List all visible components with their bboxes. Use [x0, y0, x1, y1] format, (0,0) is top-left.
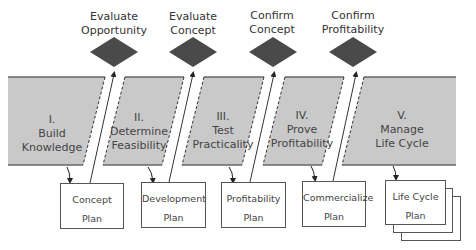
gate-diamond-3	[249, 37, 297, 67]
arrow-phase1-to-plan1	[67, 167, 70, 181]
arrow-phase2-to-plan2	[148, 167, 153, 181]
arrow-phase3-to-plan3	[229, 167, 233, 181]
arrow-phase4-to-plan4	[311, 166, 315, 179]
plan-box-life-cycle: Life Cycle Plan	[385, 180, 446, 225]
phase-label-4: IV. Prove Profitability	[257, 109, 347, 151]
gate-label-4: Confirm Profitability	[308, 9, 398, 37]
gate-label-1: Evaluate Opportunity	[69, 10, 159, 38]
phase-label-2: II. Determine Feasibility	[94, 111, 184, 153]
gate-diamond-1	[90, 37, 138, 67]
plan-box-concept: Concept Plan	[60, 183, 124, 229]
gate-diamond-4	[329, 37, 377, 67]
plan-box-development: Development Plan	[141, 182, 206, 228]
phase-label-1: I. Build Knowledge	[7, 113, 97, 155]
arrow-phase5-to-plan5	[393, 166, 396, 178]
gate-diamond-2	[169, 37, 217, 67]
phase-label-5: V. Manage Life Cycle	[357, 109, 447, 151]
gate-label-3: Confirm Concept	[227, 9, 317, 37]
gate-label-2: Evaluate Concept	[148, 10, 238, 38]
plan-box-profitability: Profitability Plan	[221, 182, 286, 228]
phase-label-3: III. Test Practicality	[178, 110, 268, 152]
plan-box-commercialize: Commercialize Plan	[302, 181, 366, 227]
